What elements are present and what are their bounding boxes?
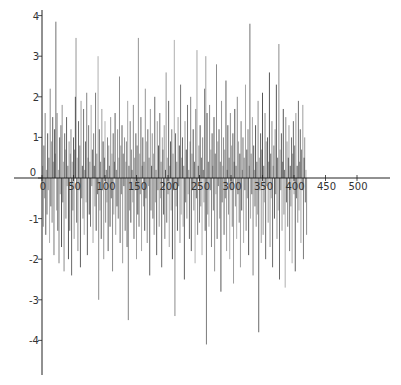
y-tick-label: 2 — [33, 92, 39, 103]
y-tick-label: -3 — [29, 295, 39, 306]
y-tick-label: -4 — [29, 335, 39, 346]
x-tick-label: 200 — [159, 181, 178, 192]
x-tick-label: 400 — [285, 181, 304, 192]
x-tick-label: 300 — [222, 181, 241, 192]
x-tick-label: 100 — [96, 181, 115, 192]
x-tick-label: 350 — [254, 181, 273, 192]
x-tick-label: 250 — [191, 181, 210, 192]
x-tick-label: 150 — [128, 181, 147, 192]
x-tick-label: 50 — [68, 181, 81, 192]
y-tick-label: -1 — [29, 214, 39, 225]
y-tick-label: 1 — [33, 132, 39, 143]
x-tick-label: 500 — [348, 181, 367, 192]
y-tick-label: -2 — [29, 254, 39, 265]
time-series-chart: 050100150200250300350400450500 43210-1-2… — [0, 0, 401, 385]
y-tick-label: 0 — [30, 167, 36, 178]
x-tick-label: 450 — [317, 181, 336, 192]
y-tick-label: 4 — [33, 11, 39, 22]
y-tick-label: 3 — [33, 51, 39, 62]
x-tick-label: 0 — [40, 181, 46, 192]
